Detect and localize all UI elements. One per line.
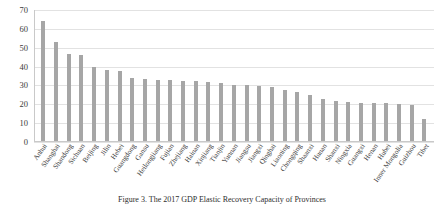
bar bbox=[219, 83, 223, 142]
bar-slot bbox=[367, 10, 380, 142]
bar bbox=[54, 42, 58, 142]
bar-slot bbox=[202, 10, 215, 142]
bar bbox=[181, 81, 185, 142]
y-axis-line bbox=[34, 10, 35, 142]
y-tick-label: 0 bbox=[24, 138, 28, 147]
bar bbox=[359, 103, 363, 142]
bar-slot bbox=[380, 10, 393, 142]
bar-slot bbox=[177, 10, 190, 142]
bar bbox=[422, 119, 426, 142]
bar-slot bbox=[101, 10, 114, 142]
figure-caption: Figure 3. The 2017 GDP Elastic Recovery … bbox=[0, 196, 444, 205]
bar-slot bbox=[316, 10, 329, 142]
bar-slot bbox=[418, 10, 431, 142]
y-tick-label: 50 bbox=[20, 43, 29, 52]
bar-slot bbox=[215, 10, 228, 142]
y-tick-label: 40 bbox=[20, 62, 29, 71]
bar bbox=[257, 86, 261, 142]
bar bbox=[232, 85, 236, 143]
bar-slot bbox=[329, 10, 342, 142]
bar bbox=[130, 78, 134, 142]
bar bbox=[194, 81, 198, 142]
bar bbox=[92, 67, 96, 142]
bar-slot bbox=[139, 10, 152, 142]
bar-series bbox=[34, 10, 434, 142]
y-tick-label: 20 bbox=[20, 100, 29, 109]
bar bbox=[321, 99, 325, 142]
bar-slot bbox=[405, 10, 418, 142]
plot-area bbox=[34, 10, 434, 142]
bar bbox=[143, 79, 147, 142]
bar bbox=[397, 104, 401, 142]
bar-slot bbox=[88, 10, 101, 142]
bar-slot bbox=[151, 10, 164, 142]
bar bbox=[245, 85, 249, 142]
bar-slot bbox=[189, 10, 202, 142]
bar-slot bbox=[164, 10, 177, 142]
y-tick-label: 60 bbox=[20, 25, 29, 34]
bar bbox=[372, 103, 376, 142]
bar bbox=[308, 95, 312, 142]
bar bbox=[295, 92, 299, 142]
bar bbox=[384, 103, 388, 142]
bar-slot bbox=[253, 10, 266, 142]
bar-slot bbox=[355, 10, 368, 142]
bar-slot bbox=[50, 10, 63, 142]
bar bbox=[206, 82, 210, 142]
bar bbox=[168, 80, 172, 142]
bar-slot bbox=[393, 10, 406, 142]
y-tick-label: 70 bbox=[20, 6, 29, 15]
bar bbox=[79, 55, 83, 142]
bar bbox=[410, 105, 414, 142]
bar bbox=[270, 87, 274, 142]
bar-slot bbox=[62, 10, 75, 142]
bar bbox=[283, 90, 287, 142]
bar-slot bbox=[126, 10, 139, 142]
y-tick-label: 30 bbox=[20, 81, 29, 90]
gdp-elastic-recovery-bar-chart: 010203040506070 AnhuiShanghaiShandongSic… bbox=[0, 0, 444, 208]
bar bbox=[334, 101, 338, 142]
x-tick-label: Tibet bbox=[416, 143, 430, 159]
bar bbox=[105, 70, 109, 142]
bar bbox=[346, 102, 350, 142]
bar-slot bbox=[75, 10, 88, 142]
y-axis-tick-labels: 010203040506070 bbox=[0, 10, 32, 142]
bar-slot bbox=[266, 10, 279, 142]
bar-slot bbox=[37, 10, 50, 142]
bar-slot bbox=[228, 10, 241, 142]
bar-slot bbox=[113, 10, 126, 142]
bar-slot bbox=[278, 10, 291, 142]
bar-slot bbox=[291, 10, 304, 142]
bar-slot bbox=[304, 10, 317, 142]
y-tick-label: 10 bbox=[20, 119, 29, 128]
bar-slot bbox=[240, 10, 253, 142]
bar bbox=[41, 21, 45, 142]
bar bbox=[118, 71, 122, 142]
bar bbox=[156, 80, 160, 142]
bar bbox=[67, 54, 71, 142]
bar-slot bbox=[342, 10, 355, 142]
x-axis-category-labels: AnhuiShanghaiShandongSichuanBeijingJilin… bbox=[34, 143, 434, 189]
